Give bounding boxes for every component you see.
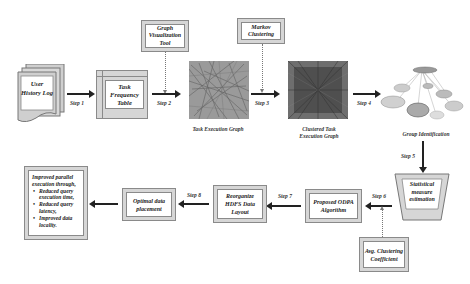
step1-arrow (67, 93, 90, 95)
step6-label: Step 6 (372, 193, 386, 199)
step5-label: Step 5 (401, 153, 415, 159)
result-bullet: Reduced query execution time, (39, 188, 81, 202)
proposed-odpa-label: Proposed ODPA Algorithm (310, 198, 357, 214)
result-heading: Improved parallel execution through, (32, 174, 81, 188)
table-body: Task Frequency Table (105, 80, 144, 109)
markov-clustering-connector (262, 44, 263, 90)
task-execution-graph-image (189, 61, 249, 119)
group-identification-caption: Group Identification (385, 131, 467, 138)
avg-clustering-coefficient-label: Avg. Clustering Coefficient (364, 247, 404, 263)
step7-arrow (271, 205, 301, 207)
avg-clustering-coefficient-box: Avg. Clustering Coefficient (359, 237, 409, 272)
step8-label: Step 8 (187, 192, 201, 198)
step5-arrow (422, 141, 424, 168)
result-box: Improved parallel execution through, Red… (24, 166, 88, 240)
step4-arrow (353, 93, 376, 95)
step8-arrow (183, 203, 209, 205)
step7-label: Step 7 (278, 193, 292, 199)
statistical-measure-label: Statistical measure estimation (406, 181, 438, 204)
task-execution-graph-caption: Task Execution Graph (178, 126, 258, 133)
result-bullet: Improved data locality. (39, 215, 81, 229)
step4-label: Step 4 (357, 100, 371, 106)
task-frequency-table-label: Task Frequency Table (106, 83, 143, 107)
markov-clustering-label: Markov Clustering (242, 24, 280, 39)
step2-label: Step 2 (157, 100, 171, 106)
reorganize-hdfs-label: Reorganize HDFS Data Layout (218, 192, 262, 216)
step1-label: Step 1 (70, 100, 84, 106)
markov-clustering-box: Markov Clustering (237, 18, 285, 44)
table-side-bar (102, 71, 103, 118)
proposed-odpa-box: Proposed ODPA Algorithm (305, 189, 362, 223)
graph-visualization-tool-label: Graph Visualization Tool (146, 25, 184, 48)
optimal-data-placement-box: Optimal data placement (122, 188, 176, 221)
result-bullet: Reduced query latency, (39, 201, 81, 215)
result-bullet-list: Reduced query execution time, Reduced qu… (32, 188, 81, 229)
reorganize-hdfs-box: Reorganize HDFS Data Layout (213, 185, 267, 223)
task-frequency-table: Task Frequency Table (96, 70, 148, 119)
step2-arrow (152, 93, 176, 95)
step3-arrow (251, 93, 275, 95)
optimal-data-placement-label: Optimal data placement (127, 197, 171, 213)
clustered-task-execution-graph-image (288, 61, 348, 119)
result-content: Improved parallel execution through, Red… (32, 174, 81, 228)
table-header-bar (97, 71, 147, 77)
user-history-log: User History Log (16, 64, 66, 126)
user-history-log-label: User History Log (21, 80, 53, 97)
graph-tool-connector (165, 52, 166, 91)
avg-clustering-connector (382, 209, 383, 237)
graph-visualization-tool-box: Graph Visualization Tool (141, 20, 189, 52)
step3-label: Step 3 (255, 100, 269, 106)
result-arrow (94, 203, 118, 205)
group-identification-image (380, 66, 466, 124)
clustered-graph-caption: Clustered Task Execution Graph (296, 126, 342, 140)
